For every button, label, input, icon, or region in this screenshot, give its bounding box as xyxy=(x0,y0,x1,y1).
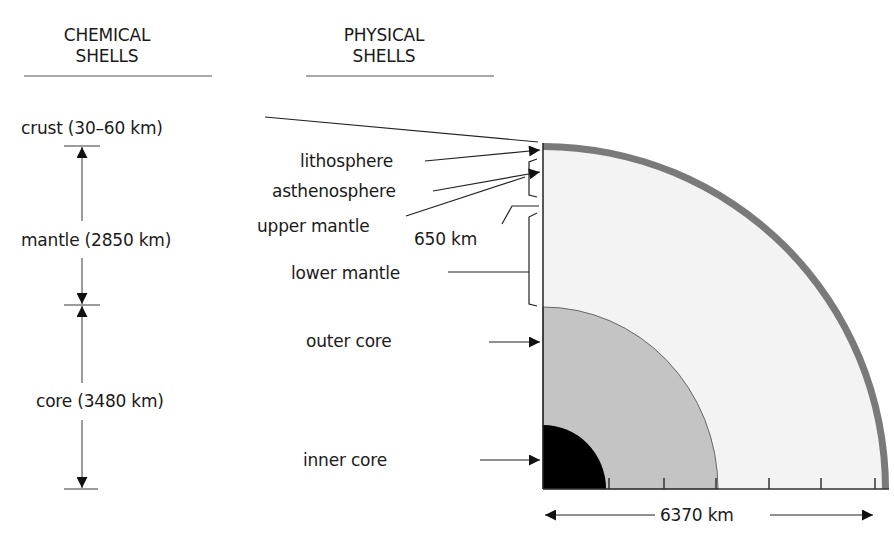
outer-core-label: outer core xyxy=(306,331,392,351)
depth-650-label: 650 km xyxy=(414,229,477,249)
earth-layers-diagram xyxy=(0,0,894,551)
upper-mantle-leader xyxy=(406,177,525,216)
asthenosphere-label: asthenosphere xyxy=(272,181,396,201)
radius-label: 6370 km xyxy=(660,505,734,525)
lithosphere-label: lithosphere xyxy=(300,151,393,171)
lower-mantle-label: lower mantle xyxy=(291,263,400,283)
lower-mantle-bracket xyxy=(529,213,537,306)
inner-core-label: inner core xyxy=(303,450,387,470)
upper-mantle-bracket xyxy=(529,159,537,197)
crust-leader xyxy=(265,117,538,142)
earth-quarter-section xyxy=(543,143,889,489)
lithosphere-leader xyxy=(425,150,540,161)
mantle-label: mantle (2850 km) xyxy=(21,230,171,250)
upper-mantle-label: upper mantle xyxy=(257,216,369,236)
crust-label: crust (30–60 km) xyxy=(21,118,163,138)
chemical-dimension-lines xyxy=(64,146,100,489)
core-label: core (3480 km) xyxy=(36,391,164,411)
asthenosphere-leader xyxy=(433,172,540,191)
